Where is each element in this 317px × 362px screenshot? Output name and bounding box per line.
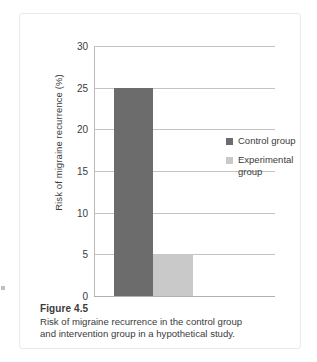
bar-experimental-group [153, 254, 193, 296]
legend-label: Experimental group [238, 154, 300, 178]
y-tick-label-20: 20 [77, 124, 88, 135]
gridline-0: 0 [94, 296, 275, 297]
legend-swatch-icon [226, 157, 233, 164]
legend-swatch-icon [226, 138, 233, 145]
caption-body: Risk of migraine recurrence in the contr… [40, 316, 292, 341]
chart-legend: Control groupExperimental group [226, 135, 300, 185]
bar-chart: Risk of migraine recurrence (%) 05101520… [20, 14, 302, 292]
y-tick-label-30: 30 [77, 41, 88, 52]
legend-item-1: Control group [226, 135, 300, 147]
figure-caption: Figure 4.5 Risk of migraine recurrence i… [40, 303, 292, 341]
y-axis-title: Risk of migraine recurrence (%) [53, 58, 64, 228]
y-tick-label-25: 25 [77, 82, 88, 93]
y-tick-label-15: 15 [77, 166, 88, 177]
caption-line-1: Risk of migraine recurrence in the contr… [40, 316, 242, 327]
caption-title: Figure 4.5 [40, 303, 292, 314]
y-tick-label-0: 0 [82, 291, 88, 302]
bars-group [95, 46, 220, 296]
y-tick-label-10: 10 [77, 207, 88, 218]
figure-page: Risk of migraine recurrence (%) 05101520… [0, 0, 317, 362]
legend-label: Control group [238, 135, 296, 147]
bar-control-group [114, 88, 153, 296]
legend-item-2: Experimental group [226, 154, 300, 178]
plot-area: 051015202530 [94, 46, 220, 296]
page-edge-mark [1, 286, 5, 290]
figure-frame: Risk of migraine recurrence (%) 05101520… [19, 13, 301, 349]
y-tick-label-5: 5 [82, 249, 88, 260]
caption-line-2: and intervention group in a hypothetical… [40, 328, 235, 339]
